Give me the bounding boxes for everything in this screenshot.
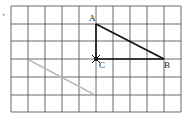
geometry-grid-diagram: A B C: [0, 0, 184, 120]
label-b: B: [164, 60, 170, 70]
label-c: C: [99, 60, 105, 70]
label-a: A: [89, 13, 96, 23]
stray-mark: [3, 14, 5, 16]
